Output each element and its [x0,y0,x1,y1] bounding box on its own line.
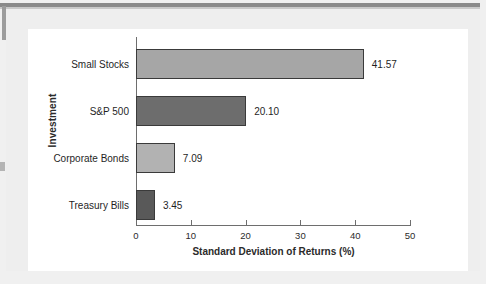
y-axis-title: Investment [47,81,58,161]
x-tick-label: 0 [133,230,138,241]
x-tick-label: 40 [350,230,361,241]
bar-value-label: 41.57 [372,58,397,69]
x-axis-line [136,225,411,226]
bar-row: 41.57 [136,49,410,79]
x-axis-title: Standard Deviation of Returns (%) [136,246,411,257]
bar [136,96,246,126]
x-tick-label: 30 [295,230,306,241]
bar [136,143,175,173]
category-label: Small Stocks [26,58,129,69]
plot-area: 01020304050 41.5720.107.093.45 Small Sto… [136,37,410,225]
x-tick-mark [300,220,301,225]
x-tick-mark [410,220,411,225]
chart-panel: Investment 01020304050 41.5720.107.093.4… [28,29,468,271]
bar [136,49,364,79]
bar-value-label: 7.09 [183,152,202,163]
x-tick-mark [191,220,192,225]
x-tick-label: 50 [405,230,416,241]
figure-root: Investment 01020304050 41.5720.107.093.4… [0,0,486,284]
category-label: S&P 500 [26,105,129,116]
bar [136,190,155,220]
x-tick-mark [355,220,356,225]
bar-value-label: 3.45 [163,199,182,210]
x-tick-label: 10 [186,230,197,241]
page-panel: Investment 01020304050 41.5720.107.093.4… [6,9,480,271]
category-label: Treasury Bills [26,199,129,210]
x-tick-mark [246,220,247,225]
bar-row: 3.45 [136,190,410,220]
x-tick-mark [136,220,137,225]
bar-row: 7.09 [136,143,410,173]
bar-value-label: 20.10 [254,105,279,116]
bar-row: 20.10 [136,96,410,126]
x-tick-label: 20 [240,230,251,241]
category-label: Corporate Bonds [26,152,129,163]
page-left-margin-mark [0,162,5,171]
